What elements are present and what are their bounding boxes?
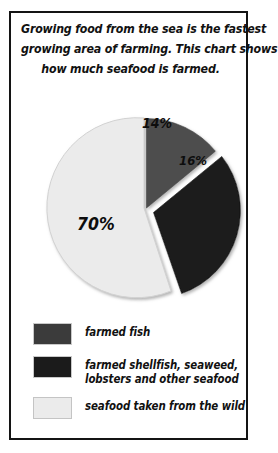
page-title: Growing food from the sea is the fastest…: [21, 19, 240, 79]
legend-swatch-seafood-taken-from-wild: [33, 397, 72, 419]
chart-legend: farmed fish farmed shellfish, seaweed, l…: [33, 323, 248, 430]
pie-data-label-70: 70%: [77, 214, 115, 234]
legend-label-line: lobsters and other seafood: [85, 373, 239, 387]
legend-swatch-farmed-shellfish: [33, 356, 72, 378]
title-line-2: growing area of farming. This chart show…: [21, 39, 240, 59]
legend-label-line: farmed fish: [85, 326, 150, 340]
legend-item-seafood-taken-from-wild[interactable]: seafood taken from the wild: [33, 397, 248, 419]
legend-item-farmed-fish[interactable]: farmed fish: [33, 323, 248, 345]
pie-chart: 14% 16% 70%: [11, 89, 246, 314]
title-line-3: how much seafood is farmed.: [21, 59, 240, 79]
pie-chart-svg: [11, 89, 246, 314]
legend-label-farmed-shellfish: farmed shellfish, seaweed, lobsters and …: [85, 356, 239, 386]
pie-data-label-14: 14%: [142, 115, 172, 131]
legend-swatch-farmed-fish: [33, 323, 72, 345]
title-line-1: Growing food from the sea is the fastest: [21, 19, 240, 39]
poster-canvas: Growing food from the sea is the fastest…: [0, 0, 260, 453]
legend-label-line: farmed shellfish, seaweed,: [85, 359, 239, 373]
legend-label-farmed-fish: farmed fish: [85, 323, 150, 340]
poster-frame: Growing food from the sea is the fastest…: [9, 11, 248, 440]
legend-item-farmed-shellfish[interactable]: farmed shellfish, seaweed, lobsters and …: [33, 356, 248, 386]
legend-label-seafood-taken-from-wild: seafood taken from the wild: [85, 397, 245, 414]
legend-label-line: seafood taken from the wild: [85, 400, 245, 414]
pie-data-label-16: 16%: [179, 153, 207, 168]
